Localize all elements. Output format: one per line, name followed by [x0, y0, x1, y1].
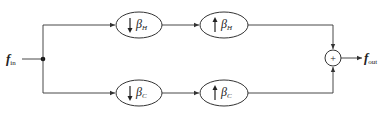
svg-text:fin: fin	[6, 51, 16, 67]
upper-path: βH βH	[43, 12, 333, 49]
upper-to-summer-arrow	[248, 25, 333, 49]
block-downsample-beta-h: βH	[116, 12, 162, 38]
block-upsample-beta-h: βH	[200, 12, 248, 38]
lower-path: βC βC	[43, 67, 333, 106]
output-label: fout	[364, 50, 377, 66]
block-downsample-beta-c: βC	[116, 80, 162, 106]
summing-node: +	[325, 50, 341, 66]
svg-text:fout: fout	[364, 50, 377, 66]
input-label: fin	[6, 51, 16, 67]
block-upsample-beta-c: βC	[200, 80, 248, 106]
plus-icon: +	[330, 53, 336, 64]
lower-to-summer-arrow	[248, 67, 333, 93]
block-diagram: fin βH βH	[0, 0, 381, 119]
